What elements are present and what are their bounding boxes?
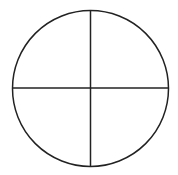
quadrant-circle-diagram: [0, 0, 178, 175]
diagram-svg: [0, 0, 178, 175]
